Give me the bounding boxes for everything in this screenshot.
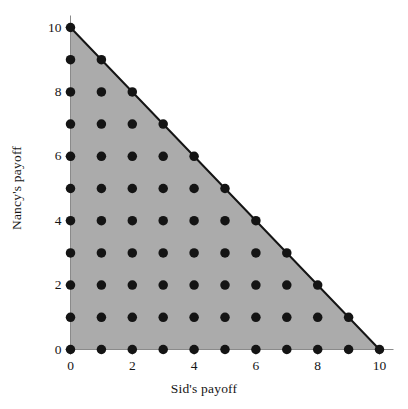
data-point — [220, 345, 230, 355]
data-point — [189, 152, 199, 162]
payoff-scatter-figure: 0246810 0246810 Sid's payoff Nancy's pay… — [0, 0, 408, 409]
data-point — [220, 280, 230, 290]
data-point — [220, 184, 230, 194]
y-tick-label: 0 — [55, 342, 62, 358]
x-tick-label: 10 — [373, 358, 387, 374]
data-point — [97, 152, 107, 162]
data-point — [158, 248, 168, 258]
data-point — [189, 280, 199, 290]
x-tick-label: 0 — [67, 358, 74, 374]
data-point — [344, 345, 354, 355]
y-tick-label: 4 — [55, 213, 62, 229]
data-point — [158, 313, 168, 323]
y-tick-label: 10 — [48, 20, 62, 36]
data-point — [128, 345, 138, 355]
data-point — [344, 313, 354, 323]
data-point — [313, 313, 323, 323]
data-point — [66, 313, 76, 323]
x-tick-label: 8 — [314, 358, 321, 374]
data-point — [97, 184, 107, 194]
data-point — [97, 345, 107, 355]
data-point — [128, 152, 138, 162]
data-point — [282, 280, 292, 290]
data-point — [66, 216, 76, 226]
data-point — [158, 216, 168, 226]
x-tick-label: 6 — [253, 358, 260, 374]
data-point — [128, 184, 138, 194]
data-point — [66, 280, 76, 290]
data-point — [220, 313, 230, 323]
data-point — [66, 152, 76, 162]
x-tick-label: 2 — [129, 358, 136, 374]
data-point — [128, 87, 138, 97]
data-point — [251, 345, 261, 355]
data-point — [220, 248, 230, 258]
data-point — [251, 313, 261, 323]
data-point — [375, 345, 385, 355]
data-point — [158, 152, 168, 162]
data-point — [251, 248, 261, 258]
data-point — [158, 184, 168, 194]
data-point — [158, 119, 168, 129]
data-point — [128, 313, 138, 323]
data-point — [66, 184, 76, 194]
data-point — [220, 216, 230, 226]
data-point — [189, 216, 199, 226]
data-point — [128, 248, 138, 258]
data-point — [313, 280, 323, 290]
data-point — [189, 345, 199, 355]
data-point — [128, 216, 138, 226]
data-point — [189, 248, 199, 258]
data-point — [158, 280, 168, 290]
y-tick-label: 6 — [55, 148, 62, 164]
data-point — [251, 280, 261, 290]
data-point — [97, 313, 107, 323]
data-point — [128, 119, 138, 129]
data-point — [282, 345, 292, 355]
data-point — [66, 23, 76, 33]
y-tick-label: 2 — [55, 277, 62, 293]
data-point — [97, 216, 107, 226]
data-point — [282, 313, 292, 323]
data-point — [251, 216, 261, 226]
data-point — [97, 55, 107, 64]
x-axis-title: Sid's payoff — [0, 381, 408, 397]
data-point — [66, 119, 76, 129]
x-tick-label: 4 — [191, 358, 198, 374]
data-point — [66, 87, 76, 97]
y-tick-label: 8 — [55, 84, 62, 100]
data-point — [97, 280, 107, 290]
data-point — [97, 248, 107, 258]
data-point — [189, 313, 199, 323]
data-point — [313, 345, 323, 355]
y-axis-title-wrap: Nancy's payoff — [4, 0, 30, 376]
data-point — [66, 55, 76, 64]
data-point — [97, 87, 107, 97]
data-point — [128, 280, 138, 290]
y-axis-title: Nancy's payoff — [9, 146, 25, 230]
data-point — [66, 248, 76, 258]
data-point — [66, 345, 76, 355]
data-point — [189, 184, 199, 194]
data-point — [158, 345, 168, 355]
data-point — [97, 119, 107, 129]
data-point — [282, 248, 292, 258]
